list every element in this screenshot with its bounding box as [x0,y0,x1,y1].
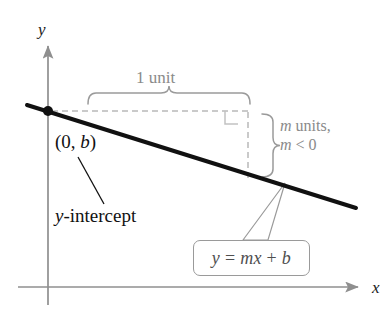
rise-text-1: units, [292,117,331,134]
y-axis-label: y [38,20,46,40]
eq-x: x [254,248,262,268]
callout-tail [243,183,285,240]
x-axis-label: x [372,278,380,298]
eq-b: b [282,248,291,268]
equation-text: y = mx + b [212,248,291,269]
rise-text-2: < 0 [292,136,317,153]
rise-line-2: m < 0 [280,136,331,155]
y-intercept-caption: y-intercept [55,205,136,227]
rise-line-1: m units, [280,117,331,136]
rise-variable-1: m [280,117,292,134]
intercept-coordinate-label: (0, b) [55,131,96,153]
rise-variable-2: m [280,136,292,153]
intercept-text: -intercept [63,205,136,226]
y-intercept-point [43,106,53,116]
eq-equals: = [220,248,240,268]
point-prefix: (0, [55,131,80,152]
rise-brace-label: m units, m < 0 [280,117,331,155]
run-brace-label: 1 unit [136,68,175,88]
point-variable: b [80,131,90,152]
eq-y: y [212,248,220,268]
equation-callout-box: y = mx + b [193,240,310,276]
right-angle-mark [225,111,238,124]
rise-brace [262,114,280,177]
eq-m: m [240,248,253,268]
point-suffix: ) [90,131,96,152]
intercept-leader-line [78,157,104,204]
run-brace [88,86,250,104]
eq-plus: + [262,248,282,268]
slope-intercept-diagram: y x (0, b) y-intercept 1 unit m units, m… [0,0,392,313]
